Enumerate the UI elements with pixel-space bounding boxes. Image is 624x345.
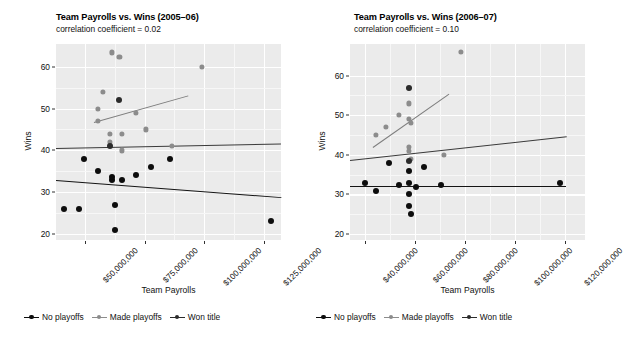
data-point-no-playoffs [133,172,139,178]
legend-item-made-playoffs[interactable]: Made playoffs [92,312,162,322]
data-point-won-title [406,158,412,164]
data-point-no-playoffs [396,182,402,188]
y-tick-label: 20 [30,229,50,239]
data-point-made-playoffs [95,119,100,124]
data-point-made-playoffs [143,127,148,132]
legend-key-icon [170,313,185,322]
x-tick-label: $80,000,000 [481,246,520,285]
gridline-vertical-minor [234,44,235,240]
y-tick-mark [346,194,349,195]
legend-label: Made playoffs [110,312,162,322]
data-point-no-playoffs [167,156,173,162]
y-tick-label: 40 [324,150,344,160]
legend-key-icon [92,313,107,322]
gridline-horizontal [350,194,585,195]
gridline-vertical [204,44,205,240]
plot-area-right [350,44,585,240]
y-tick-mark [346,115,349,116]
data-point-no-playoffs [109,174,115,180]
data-point-no-playoffs [421,164,427,170]
y-tick-label: 30 [30,187,50,197]
x-tick-mark [264,241,265,244]
gridline-vertical-minor [490,44,491,240]
gridline-horizontal [56,192,281,193]
x-tick-mark [204,241,205,244]
y-tick-mark [52,108,55,109]
data-point-made-playoffs [119,131,124,136]
x-tick-label: $100,000,000 [533,246,575,288]
data-point-no-playoffs [112,202,118,208]
data-point-made-playoffs [95,106,100,111]
gridline-vertical [85,44,86,240]
gridline-vertical [465,44,466,240]
legend-item-no-playoffs[interactable]: No playoffs [316,312,376,322]
gridline-horizontal [350,115,585,116]
x-tick-mark [565,241,566,244]
trendline-no-playoffs [350,186,566,187]
data-point-made-playoffs [117,54,122,59]
gridline-horizontal-minor [350,135,585,136]
legend-key-icon [316,313,331,322]
legend-label: Won title [188,312,220,322]
y-tick-mark [52,66,55,67]
gridline-vertical [264,44,265,240]
data-point-made-playoffs [459,49,464,54]
data-point-no-playoffs [81,156,87,162]
y-tick-mark [52,192,55,193]
data-point-made-playoffs [396,113,401,118]
data-point-no-playoffs [386,160,392,166]
gridline-vertical-minor [390,44,391,240]
data-point-made-playoffs [384,125,389,130]
legend-item-no-playoffs[interactable]: No playoffs [24,312,84,322]
data-point-no-playoffs [268,218,274,224]
data-point-no-playoffs [112,227,118,233]
plot-area-left [56,44,281,240]
data-point-no-playoffs [406,203,412,209]
data-point-no-playoffs [373,188,379,194]
gridline-horizontal [56,109,281,110]
legend-item-won-title[interactable]: Won title [170,312,220,322]
legend-key-icon [462,313,477,322]
legend-item-won-title[interactable]: Won title [462,312,512,322]
gridline-horizontal [56,234,281,235]
x-tick-mark [515,241,516,244]
gridline-vertical-minor [115,44,116,240]
gridline-horizontal-minor [56,88,281,89]
data-point-made-playoffs [374,132,379,137]
legend-key-icon [24,313,39,322]
data-point-made-playoffs [134,110,139,115]
data-point-no-playoffs [408,211,414,217]
data-point-made-playoffs [441,152,446,157]
gridline-vertical-minor [540,44,541,240]
y-tick-mark [52,150,55,151]
data-point-made-playoffs [100,89,105,94]
x-tick-label: $75,000,000 [161,246,200,285]
data-point-no-playoffs [76,206,82,212]
data-point-won-title [406,85,412,91]
panel-left-subtitle: correlation coefficient = 0.02 [56,24,161,34]
y-tick-label: 40 [30,145,50,155]
y-tick-label: 50 [324,110,344,120]
x-tick-mark [85,241,86,244]
data-point-no-playoffs [413,184,419,190]
gridline-horizontal [56,67,281,68]
gridline-horizontal-minor [56,129,281,130]
data-point-no-playoffs [406,191,412,197]
y-tick-label: 20 [324,229,344,239]
data-point-made-playoffs [107,131,112,136]
gridline-vertical [415,44,416,240]
data-point-no-playoffs [438,182,444,188]
data-point-no-playoffs [148,164,154,170]
panel-right-subtitle: correlation coefficient = 0.10 [354,24,459,34]
legend-item-made-playoffs[interactable]: Made playoffs [384,312,454,322]
y-axis-title-left: Wins [23,111,33,171]
gridline-horizontal-minor [350,214,585,215]
data-point-no-playoffs [406,168,412,174]
y-tick-mark [52,233,55,234]
data-point-won-title [116,97,122,103]
gridline-horizontal-minor [350,95,585,96]
gridline-horizontal [350,234,585,235]
legend-key-icon [384,313,399,322]
data-point-made-playoffs [409,121,414,126]
